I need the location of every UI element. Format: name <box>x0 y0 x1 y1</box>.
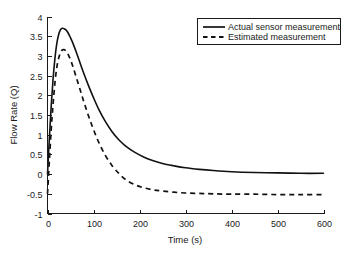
chart-canvas: 0100200300400500600 -1-0.500.511.522.533… <box>0 0 351 254</box>
x-tick-label: 100 <box>87 219 102 229</box>
y-tick-label: -0.5 <box>27 190 43 200</box>
y-tick-label: -1 <box>34 210 42 220</box>
legend-label-actual: Actual sensor measurement <box>228 22 341 32</box>
x-tick-label: 300 <box>179 219 194 229</box>
y-tick-label: 2 <box>37 91 42 101</box>
chart-figure: 0100200300400500600 -1-0.500.511.522.533… <box>0 0 351 254</box>
x-tick-label: 500 <box>271 219 286 229</box>
y-axis-label: Flow Rate (Q) <box>8 85 19 144</box>
y-tick-label: 1.5 <box>30 111 43 121</box>
y-tick-label: 0.5 <box>30 150 43 160</box>
y-tick-label: 4 <box>37 13 42 23</box>
x-tick-label: 600 <box>317 219 332 229</box>
y-tick-label: 3.5 <box>30 32 43 42</box>
x-axis-label: Time (s) <box>168 234 202 245</box>
legend: Actual sensor measurement Estimated meas… <box>198 19 341 45</box>
legend-label-estimated: Estimated measurement <box>228 32 326 42</box>
y-tick-label: 1 <box>37 131 42 141</box>
y-tick-label: 3 <box>37 52 42 62</box>
x-tick-label: 0 <box>46 219 51 229</box>
y-tick-label: 2.5 <box>30 72 43 82</box>
x-tick-label: 200 <box>133 219 148 229</box>
x-tick-label: 400 <box>225 219 240 229</box>
y-tick-label: 0 <box>37 170 42 180</box>
